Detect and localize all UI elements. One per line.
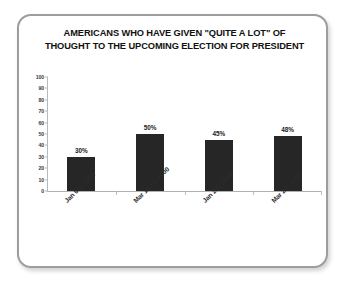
y-tick-label: 90 xyxy=(38,85,44,91)
chart-title-line-2: THOUGHT TO THE UPCOMING ELECTION FOR PRE… xyxy=(27,40,322,53)
chart-page: AMERICANS WHO HAVE GIVEN "QUITE A LOT" O… xyxy=(0,0,347,288)
y-tick-mark xyxy=(45,88,48,89)
y-tick-mark xyxy=(45,134,48,135)
y-tick-mark xyxy=(45,145,48,146)
chart-title: AMERICANS WHO HAVE GIVEN "QUITE A LOT" O… xyxy=(27,27,322,53)
chart-card: AMERICANS WHO HAVE GIVEN "QUITE A LOT" O… xyxy=(17,14,328,268)
y-tick-label: 0 xyxy=(41,188,44,194)
y-tick-label: 40 xyxy=(38,142,44,148)
bar-value-label: 45% xyxy=(212,130,225,137)
y-tick-label: 30 xyxy=(38,154,44,160)
y-tick-mark xyxy=(45,156,48,157)
y-tick-label: 20 xyxy=(38,165,44,171)
y-tick-mark xyxy=(45,168,48,169)
y-tick-mark xyxy=(45,77,48,78)
y-tick-label: 100 xyxy=(36,74,44,80)
x-axis-divider xyxy=(321,191,322,195)
y-tick-label: 10 xyxy=(38,177,44,183)
y-tick-mark xyxy=(45,191,48,192)
y-tick-label: 50 xyxy=(38,131,44,137)
x-axis-divider xyxy=(116,191,117,195)
chart-title-line-1: AMERICANS WHO HAVE GIVEN "QUITE A LOT" O… xyxy=(27,27,322,40)
bar-value-label: 50% xyxy=(144,124,157,131)
y-tick-mark xyxy=(45,111,48,112)
y-tick-mark xyxy=(45,99,48,100)
x-axis-divider xyxy=(185,191,186,195)
y-tick-label: 70 xyxy=(38,108,44,114)
bar-value-label: 48% xyxy=(281,126,294,133)
y-tick-label: 80 xyxy=(38,97,44,103)
y-tick-mark xyxy=(45,179,48,180)
y-tick-label: 60 xyxy=(38,120,44,126)
plot-area: 0102030405060708090100 30%50%45%48% Jan … xyxy=(47,77,322,191)
bar-value-label: 30% xyxy=(75,147,88,154)
y-tick-mark xyxy=(45,122,48,123)
x-axis-divider xyxy=(253,191,254,195)
